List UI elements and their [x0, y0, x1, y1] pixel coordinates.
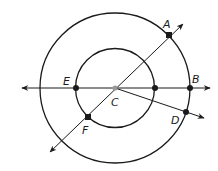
- label-B: B: [192, 73, 200, 86]
- point-inner-right: [152, 85, 158, 91]
- label-A: A: [162, 18, 171, 31]
- label-E: E: [63, 75, 70, 88]
- point-A: [166, 32, 172, 38]
- point-D: [183, 109, 189, 115]
- point-C: [112, 85, 117, 90]
- geometry-diagram: A B C D E F: [0, 0, 218, 171]
- point-F: [85, 114, 91, 120]
- ray-CD: [115, 88, 204, 118]
- label-D: D: [171, 114, 179, 127]
- point-E: [73, 85, 79, 91]
- label-F: F: [82, 124, 89, 137]
- label-C: C: [111, 96, 119, 109]
